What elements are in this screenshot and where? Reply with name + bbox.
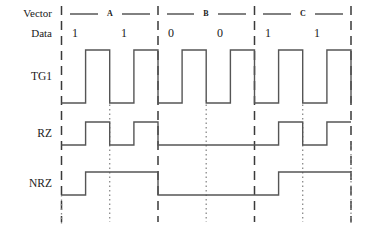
vector-header-b: B <box>167 9 246 18</box>
data-bit-b0: 0 <box>168 26 174 40</box>
vector-header-row: A B C <box>70 9 343 18</box>
signal-label-rz: RZ <box>37 127 52 139</box>
data-bit-c0: 1 <box>265 26 271 40</box>
timing-diagram-canvas: Vector Data TG1 RZ NRZ A <box>0 0 372 230</box>
data-bit-b1: 0 <box>217 26 223 40</box>
data-bit-a0: 1 <box>72 26 78 40</box>
vector-name-a: A <box>107 9 113 18</box>
bit-boundary-markers <box>62 100 352 224</box>
vector-row-label: Vector <box>23 7 52 19</box>
vector-name-c: C <box>300 9 306 18</box>
signal-label-tg1: TG1 <box>31 70 52 82</box>
vector-header-a: A <box>70 9 150 18</box>
vector-name-b: B <box>203 9 209 18</box>
waveform-tg1 <box>62 50 352 103</box>
waveform-nrz <box>62 172 352 195</box>
data-bit-a1: 1 <box>121 26 127 40</box>
signal-label-nrz: NRZ <box>29 177 52 189</box>
data-bit-row: 1 1 0 0 1 1 <box>72 26 320 40</box>
data-bit-c1: 1 <box>314 26 320 40</box>
label-column: Vector Data TG1 RZ NRZ <box>23 7 52 189</box>
vector-header-c: C <box>263 9 343 18</box>
data-row-label: Data <box>31 27 52 39</box>
timing-diagram-figure: Vector Data TG1 RZ NRZ A <box>0 0 372 230</box>
